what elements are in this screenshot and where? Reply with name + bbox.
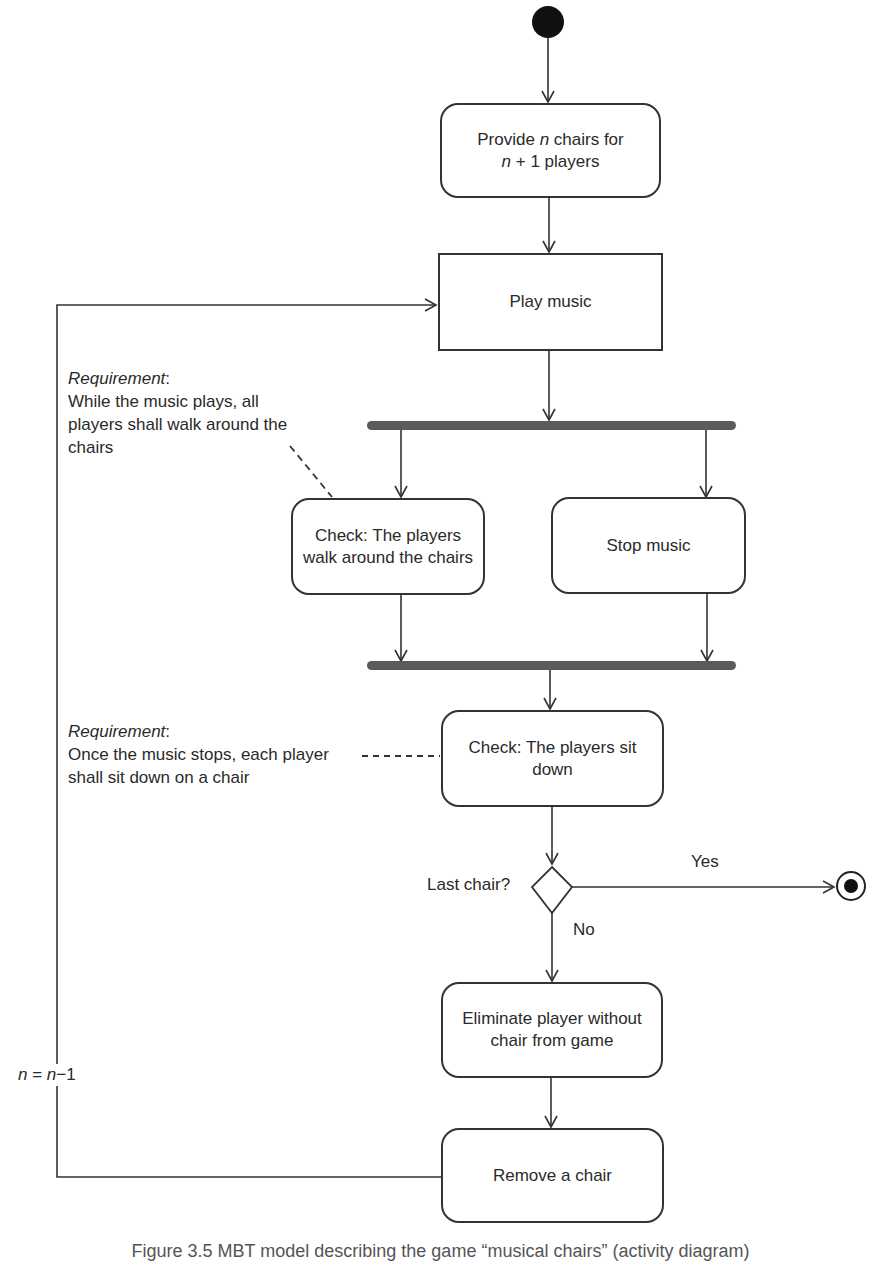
action-play-music: Play music: [438, 253, 663, 351]
loop-guard-label: n = n−1: [18, 1064, 78, 1086]
note-line: shall sit down on a chair: [68, 766, 329, 789]
action-provide-chairs: Provide n chairs for n + 1 players: [440, 103, 661, 198]
action-text: Provide: [477, 130, 539, 149]
action-stop-music: Stop music: [551, 497, 746, 594]
action-eliminate-player: Eliminate player without chair from game: [441, 982, 663, 1078]
action-text: chairs for: [549, 130, 624, 149]
note-line: players shall walk around the: [68, 413, 287, 436]
note-title: Requirement: [68, 722, 165, 741]
note-line: While the music plays, all: [68, 390, 287, 413]
note-colon: :: [165, 722, 170, 741]
variable-n: n: [502, 152, 511, 171]
variable-n: n: [540, 130, 549, 149]
decrement: −1: [56, 1065, 75, 1084]
final-node-icon: [837, 872, 865, 900]
fork-bar: [367, 421, 736, 430]
note-colon: :: [165, 369, 170, 388]
note-line: Once the music stops, each player: [68, 743, 329, 766]
equals-sign: =: [27, 1065, 46, 1084]
decision-label: Last chair?: [427, 874, 510, 896]
action-text: Check: The players: [315, 525, 461, 547]
requirement-note-2: Requirement: Once the music stops, each …: [68, 720, 329, 789]
requirement-note-1: Requirement: While the music plays, all …: [68, 367, 287, 459]
join-bar: [367, 661, 736, 670]
action-remove-chair: Remove a chair: [441, 1128, 664, 1223]
initial-node-icon: [532, 6, 564, 38]
decision-diamond: [532, 867, 572, 913]
action-text: Remove a chair: [493, 1165, 612, 1187]
action-text: chair from game: [491, 1030, 614, 1052]
guard-no-label: No: [573, 919, 595, 941]
action-text: Eliminate player without: [462, 1008, 642, 1030]
action-text: down: [532, 759, 573, 781]
note-line: chairs: [68, 436, 287, 459]
action-text: Check: The players sit: [469, 737, 637, 759]
action-text: Play music: [509, 291, 591, 313]
note-title: Requirement: [68, 369, 165, 388]
action-text: + 1 players: [511, 152, 599, 171]
guard-yes-label: Yes: [691, 851, 719, 873]
action-check-walk: Check: The players walk around the chair…: [291, 498, 485, 595]
action-check-sit: Check: The players sit down: [441, 710, 664, 807]
note-anchor-1: [290, 446, 332, 497]
action-text: walk around the chairs: [303, 547, 473, 569]
action-text: Stop music: [606, 535, 690, 557]
variable-n: n: [47, 1065, 56, 1084]
figure-caption: Figure 3.5 MBT model describing the game…: [0, 1241, 881, 1262]
